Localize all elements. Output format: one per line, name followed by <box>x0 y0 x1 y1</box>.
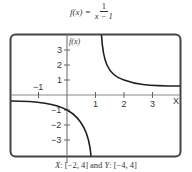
window-caption: X: [−2, 4] and Y: [−4, 4] <box>0 160 192 170</box>
plot-area: −1 1 2 3 3 2 1 −1 −2 −3 X f(x) <box>0 0 192 172</box>
x-tick-label: −1 <box>33 82 43 92</box>
y-tick-label: −1 <box>51 105 61 115</box>
y-tick-label: 1 <box>57 75 62 85</box>
x-tick-label: 3 <box>150 99 155 109</box>
caption-y-range: : [−4, 4] <box>109 160 137 170</box>
y-tick-label: −3 <box>51 135 61 145</box>
curve-right-branch <box>102 35 181 86</box>
x-tick-label: 2 <box>122 99 127 109</box>
caption-x-range: : [−2, 4] and <box>60 160 104 170</box>
x-axis-label: X <box>173 96 179 106</box>
x-tick-label: 1 <box>93 99 98 109</box>
y-tick-label: 2 <box>57 60 62 70</box>
y-tick-label: −2 <box>51 120 61 130</box>
y-tick-label: 3 <box>57 45 62 55</box>
y-axis-label: f(x) <box>69 37 80 46</box>
